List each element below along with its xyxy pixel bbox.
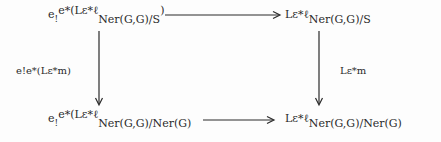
node-bottom-right-sub: Ner(G,G)/Ner(G) xyxy=(309,117,402,130)
node-bottom-left-main: e*(Lε*ℓ xyxy=(58,108,98,121)
arrow-right-label-text: Lε*m xyxy=(340,65,366,76)
arrow-left-label-main: e*(Lε*m) xyxy=(26,65,71,76)
node-top-left-sub: Ner(G,G)/S xyxy=(98,13,160,26)
down-arrow-icon xyxy=(314,31,324,107)
node-top-left-prefix: e xyxy=(48,8,55,21)
arrow-left-label: e!e*(Lε*m) xyxy=(16,66,71,76)
arrow-bottom xyxy=(203,115,277,125)
node-bottom-left: e!e*(Lε*ℓNer(G,G)/Ner(G) xyxy=(48,113,191,124)
arrow-right-label: Lε*m xyxy=(340,66,366,76)
arrow-top xyxy=(165,10,283,20)
right-arrow-icon xyxy=(165,10,283,20)
node-top-right: Lε*ℓNer(G,G)/S xyxy=(285,9,371,20)
right-arrow-icon xyxy=(203,115,277,125)
down-arrow-icon xyxy=(94,31,104,107)
node-bottom-left-sub: Ner(G,G)/Ner(G) xyxy=(98,117,191,130)
node-bottom-left-prefix: e xyxy=(48,112,55,125)
node-top-right-main: Lε*ℓ xyxy=(285,8,309,21)
node-top-left: e!e*(Lε*ℓNer(G,G)/S) xyxy=(48,9,164,20)
node-bottom-right-main: Lε*ℓ xyxy=(285,112,309,125)
node-bottom-right: Lε*ℓNer(G,G)/Ner(G) xyxy=(285,113,402,124)
node-top-right-sub: Ner(G,G)/S xyxy=(309,13,371,26)
arrow-left xyxy=(94,31,104,107)
node-top-left-close: ) xyxy=(160,4,164,17)
arrow-right xyxy=(314,31,324,107)
node-top-left-main: e*(Lε*ℓ xyxy=(58,4,98,17)
